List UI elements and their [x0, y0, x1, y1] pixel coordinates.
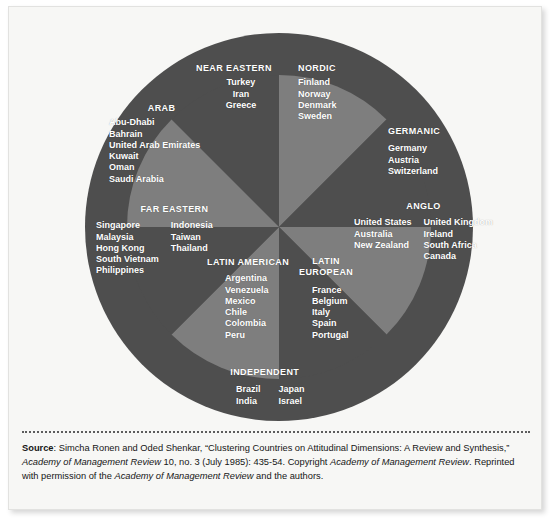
- source-text: Source: Simcha Ronen and Oded Shenkar, “…: [22, 442, 530, 484]
- source-journal2: Academy of Management Review: [330, 457, 469, 467]
- cluster-germanic: GERMANIC Germany Austria Switzerland: [388, 126, 440, 177]
- cluster-independent: INDEPENDENT Brazil India Japan Israel: [225, 367, 305, 407]
- cluster-near-eastern: NEAR EASTERN Turkey Iran Greece: [196, 63, 272, 111]
- member: Peru: [225, 330, 289, 341]
- source-part1: Simcha Ronen and Oded Shenkar, “Clusteri…: [59, 443, 510, 453]
- cluster-members: Argentina Venezuela Mexico Chile Colombi…: [225, 273, 289, 341]
- member: Kuwait: [109, 151, 200, 162]
- cluster-latin-american: LATIN AMERICAN Argentina Venezuela Mexic…: [207, 257, 289, 341]
- source-journal3: Academy of Management Review: [115, 471, 254, 481]
- member: South Africa: [424, 240, 494, 251]
- member: Switzerland: [388, 166, 440, 177]
- member: Germany: [388, 143, 440, 154]
- member: Mexico: [225, 296, 289, 307]
- member: Colombia: [225, 318, 289, 329]
- member: Venezuela: [225, 285, 289, 296]
- cluster-members-column: United Kingdom Ireland South Africa Cana…: [424, 217, 494, 262]
- member: Israel: [279, 396, 305, 407]
- cluster-members: Brazil India Japan Israel: [236, 384, 305, 407]
- cluster-title: NORDIC: [298, 63, 337, 74]
- cluster-members: Finland Norway Denmark Sweden: [298, 77, 337, 122]
- member: Sweden: [298, 111, 337, 122]
- source-part4: and the authors.: [254, 471, 324, 481]
- source-label: Source: [22, 443, 54, 453]
- member: Italy: [312, 307, 353, 318]
- member: Oman: [109, 162, 200, 173]
- cluster-title: NEAR EASTERN: [196, 63, 272, 74]
- cluster-title: GERMANIC: [388, 126, 440, 137]
- member: Belgium: [312, 296, 353, 307]
- member: Turkey: [210, 77, 272, 88]
- source-journal1: Academy of Management Review: [22, 457, 161, 467]
- member: France: [312, 285, 353, 296]
- cluster-nordic: NORDIC Finland Norway Denmark Sweden: [298, 63, 337, 122]
- cluster-members: Abu-Dhabi Bahrain United Arab Emirates K…: [109, 117, 200, 185]
- member: Austria: [388, 155, 440, 166]
- member: Brazil: [236, 384, 261, 395]
- cluster-title: FAR EASTERN: [136, 204, 213, 215]
- member: South Vietnam: [96, 254, 159, 265]
- member: Japan: [279, 384, 305, 395]
- member: Norway: [298, 89, 337, 100]
- member: Argentina: [225, 273, 289, 284]
- member: Singapore: [96, 220, 159, 231]
- member: Taiwan: [171, 232, 213, 243]
- member: Bahrain: [109, 129, 200, 140]
- cluster-title: ARAB: [123, 103, 200, 114]
- cluster-members-column: Singapore Malaysia Hong Kong South Vietn…: [96, 220, 159, 276]
- cluster-title: LATIN AMERICAN: [207, 257, 289, 268]
- source-note: Source: Simcha Ronen and Oded Shenkar, “…: [9, 431, 543, 511]
- member: Indonesia: [171, 220, 213, 231]
- member: United Arab Emirates: [109, 140, 200, 151]
- cluster-title-line1: LATIN: [299, 256, 353, 267]
- member: Malaysia: [96, 232, 159, 243]
- cluster-members-column: Japan Israel: [279, 384, 305, 407]
- member: Spain: [312, 318, 353, 329]
- cluster-title: INDEPENDENT: [225, 367, 305, 378]
- member: United Kingdom: [424, 217, 494, 228]
- member: Finland: [298, 77, 337, 88]
- cluster-members: United States Australia New Zealand Unit…: [354, 217, 493, 262]
- cluster-latin-european: LATIN EUROPEAN France Belgium Italy Spai…: [299, 256, 353, 341]
- member: Hong Kong: [96, 243, 159, 254]
- member: Ireland: [424, 229, 494, 240]
- cluster-members: Turkey Iran Greece: [210, 77, 272, 111]
- member: Australia: [354, 229, 412, 240]
- member: Chile: [225, 307, 289, 318]
- member: Philippines: [96, 265, 159, 276]
- member: Abu-Dhabi: [109, 117, 200, 128]
- cluster-members: Germany Austria Switzerland: [388, 143, 440, 177]
- cluster-title: LATIN EUROPEAN: [299, 256, 353, 279]
- member: Iran: [210, 89, 272, 100]
- member: New Zealand: [354, 240, 412, 251]
- cluster-arab: ARAB Abu-Dhabi Bahrain United Arab Emira…: [109, 103, 200, 185]
- figure-root: NEAR EASTERN Turkey Iran Greece NORDIC F…: [0, 0, 558, 529]
- member: United States: [354, 217, 412, 228]
- cluster-title-line2: EUROPEAN: [299, 267, 353, 278]
- divider: [22, 431, 530, 435]
- member: Thailand: [171, 243, 213, 254]
- cluster-members-column: United States Australia New Zealand: [354, 217, 412, 262]
- source-part2: 10, no. 3 (July 1985): 435-54. Copyright: [161, 457, 330, 467]
- member: Denmark: [298, 100, 337, 111]
- cluster-title: ANGLO: [354, 201, 493, 212]
- member: Saudi Arabia: [109, 174, 200, 185]
- cluster-members-column: Brazil India: [236, 384, 261, 407]
- cluster-members: Singapore Malaysia Hong Kong South Vietn…: [96, 220, 213, 276]
- figure-card: NEAR EASTERN Turkey Iran Greece NORDIC F…: [8, 6, 542, 510]
- cluster-members: France Belgium Italy Spain Portugal: [312, 285, 353, 341]
- cluster-far-eastern: FAR EASTERN Singapore Malaysia Hong Kong…: [96, 204, 213, 277]
- cluster-anglo: ANGLO United States Australia New Zealan…: [354, 201, 493, 262]
- member: Greece: [210, 100, 272, 111]
- member: India: [236, 396, 261, 407]
- member: Canada: [424, 251, 494, 262]
- member: Portugal: [312, 330, 353, 341]
- pie-chart: NEAR EASTERN Turkey Iran Greece NORDIC F…: [9, 7, 543, 431]
